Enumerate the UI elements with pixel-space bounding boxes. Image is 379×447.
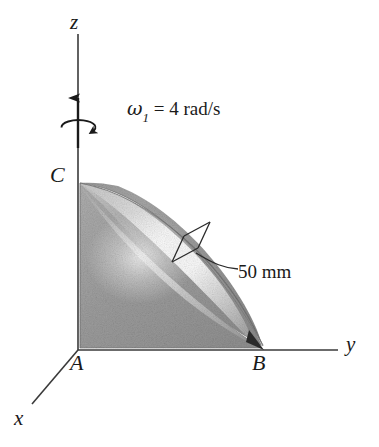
angular-velocity-indicator — [61, 98, 95, 148]
omega-symbol: ω — [127, 97, 143, 119]
dimension-label-50mm: 50 mm — [238, 262, 291, 281]
axis-label-x: x — [14, 408, 23, 429]
point-label-a: A — [70, 352, 83, 374]
axis-label-z: z — [70, 12, 78, 33]
point-label-c: C — [50, 164, 65, 186]
figure-container: z y x A B C ω1 = 4 rad/s 50 mm — [0, 0, 379, 447]
axis-label-y: y — [346, 334, 355, 355]
point-label-b: B — [252, 352, 265, 374]
angular-velocity-label: ω1 = 4 rad/s — [127, 99, 220, 122]
omega-value-text: = 4 rad/s — [149, 98, 220, 119]
cone-rotation-diagram — [0, 0, 379, 447]
cone-body — [80, 183, 263, 348]
omega-subscript: 1 — [143, 110, 150, 125]
cone-center-glow — [86, 212, 194, 304]
